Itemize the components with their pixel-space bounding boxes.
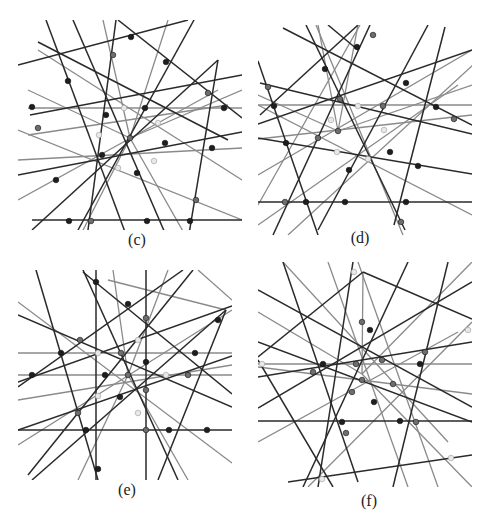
intersection-node (390, 381, 396, 387)
panel-label-c: (c) (107, 231, 167, 249)
intersection-node (403, 80, 409, 86)
intersection-node (359, 377, 365, 383)
arrangement-line (38, 50, 242, 180)
intersection-node (143, 387, 149, 393)
intersection-node (342, 199, 348, 205)
intersection-node (143, 359, 149, 365)
intersection-node (209, 145, 215, 151)
diagram-panel-d (258, 25, 474, 237)
arrangement-line (18, 130, 242, 220)
intersection-node (66, 218, 72, 224)
intersection-node (322, 66, 328, 72)
intersection-node (88, 218, 94, 224)
intersection-node (422, 349, 428, 355)
intersection-node (448, 455, 454, 461)
panel-label-f: (f) (339, 492, 399, 510)
intersection-node (303, 199, 309, 205)
arrangement-line (358, 262, 438, 487)
intersection-node (397, 418, 403, 424)
intersection-node (163, 59, 169, 65)
intersection-node (319, 476, 325, 482)
intersection-node (343, 430, 349, 436)
intersection-node (163, 372, 169, 378)
intersection-node (433, 104, 439, 110)
intersection-node (185, 372, 191, 378)
arrangement-line (18, 310, 232, 445)
intersection-node (221, 105, 227, 111)
arrangement-line (288, 65, 473, 235)
intersection-node (95, 350, 101, 356)
intersection-node (370, 32, 376, 38)
intersection-node (117, 394, 123, 400)
line-arrangement-e (18, 270, 234, 482)
intersection-node (415, 163, 421, 169)
intersection-node (83, 427, 89, 433)
intersection-node (143, 315, 149, 321)
intersection-node (337, 96, 343, 102)
arrangement-line (118, 20, 242, 118)
line-arrangement-f (258, 262, 474, 489)
arrangement-line (328, 262, 408, 487)
intersection-node (102, 372, 108, 378)
intersection-node (53, 177, 59, 183)
lines-group (258, 25, 473, 235)
arrangement-line (28, 90, 130, 138)
intersection-node (380, 103, 386, 109)
intersection-node (155, 120, 161, 126)
intersection-node (143, 427, 149, 433)
intersection-node (128, 34, 134, 40)
arrangement-line (32, 60, 218, 230)
arrangement-line (38, 42, 228, 140)
intersection-node (259, 361, 265, 367)
intersection-node (166, 427, 172, 433)
intersection-node (346, 167, 352, 173)
intersection-node (187, 218, 193, 224)
intersection-node (371, 399, 377, 405)
intersection-node (125, 372, 131, 378)
intersection-node (403, 199, 409, 205)
intersection-node (103, 112, 109, 118)
intersection-node (335, 128, 341, 134)
intersection-node (151, 158, 157, 164)
arrangement-line (18, 20, 188, 65)
lines-group (258, 262, 472, 487)
intersection-node (320, 361, 326, 367)
arrangement-line (258, 25, 360, 205)
arrangement-line (318, 25, 428, 230)
intersection-node (95, 466, 101, 472)
intersection-node (93, 279, 99, 285)
intersection-node (95, 393, 101, 399)
panel-label-e: (e) (97, 481, 157, 499)
intersection-node (334, 149, 340, 155)
intersection-node (353, 361, 359, 367)
arrangement-line (198, 270, 232, 300)
intersection-node (283, 140, 289, 146)
arrangement-line (130, 90, 242, 138)
intersection-node (315, 135, 321, 141)
intersection-node (265, 84, 271, 90)
intersection-node (417, 361, 423, 367)
intersection-node (451, 116, 457, 122)
intersection-node (144, 218, 150, 224)
intersection-node (162, 140, 168, 146)
intersection-node (310, 369, 316, 375)
diagram-panel-f (258, 262, 474, 489)
intersection-node (135, 410, 141, 416)
intersection-node (365, 156, 371, 162)
intersection-node (398, 219, 404, 225)
intersection-node (282, 199, 288, 205)
intersection-node (339, 419, 345, 425)
intersection-node (381, 127, 387, 133)
intersection-node (349, 389, 355, 395)
intersection-node (96, 132, 102, 138)
intersection-node (204, 427, 210, 433)
intersection-node (121, 105, 127, 111)
intersection-node (413, 419, 419, 425)
intersection-node (75, 410, 81, 416)
intersection-node (142, 105, 148, 111)
intersection-node (35, 125, 41, 131)
intersection-node (125, 301, 131, 307)
intersection-node (328, 117, 334, 123)
intersection-node (271, 103, 277, 109)
arrangement-line (258, 360, 333, 487)
